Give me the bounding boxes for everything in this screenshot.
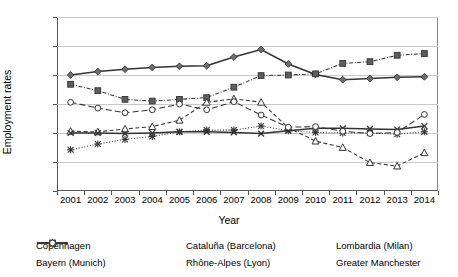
data-point-circle: [177, 101, 183, 107]
data-point-circle: [313, 124, 319, 130]
legend-label: Bayern (Munich): [36, 257, 106, 268]
data-point-star: [203, 127, 210, 134]
data-point-star: [176, 128, 183, 135]
data-point-triangle: [339, 144, 346, 151]
data-point-diamond: [230, 54, 237, 61]
data-point-triangle: [394, 162, 401, 169]
data-point-star: [258, 123, 265, 130]
data-point-circle: [367, 131, 373, 137]
data-point-circle: [204, 107, 210, 113]
data-point-circle: [95, 105, 101, 111]
data-point-circle: [122, 110, 128, 116]
legend-item[interactable]: Lombardia (Milan): [336, 240, 446, 251]
data-point-star: [230, 127, 237, 134]
legend-label: Greater Manchester: [336, 257, 420, 268]
legend: CopenhagenCataluña (Barcelona)Lombardia …: [36, 237, 436, 271]
data-point-diamond: [339, 76, 346, 83]
data-point-square: [95, 88, 101, 94]
x-tick-label: 2014: [407, 195, 441, 205]
data-point-circle: [50, 240, 56, 246]
data-point-square: [122, 96, 128, 102]
data-point-circle: [340, 128, 346, 134]
data-point-diamond: [67, 72, 74, 79]
legend-label: Cataluña (Barcelona): [186, 240, 276, 251]
legend-label: Rhône-Alpes (Lyon): [186, 257, 270, 268]
data-point-triangle: [176, 117, 183, 124]
data-point-square: [68, 81, 74, 87]
legend-item[interactable]: Cataluña (Barcelona): [186, 240, 336, 251]
data-point-star: [122, 136, 129, 143]
series-bayern-munich: [68, 51, 428, 104]
series-layer: [57, 17, 438, 191]
legend-label: Lombardia (Milan): [336, 240, 413, 251]
data-point-triangle: [149, 123, 156, 129]
data-point-triangle: [312, 138, 319, 145]
data-point-diamond: [367, 75, 374, 82]
series-catalu-a-barcelona: [67, 95, 428, 169]
data-point-diamond: [285, 61, 292, 68]
data-point-circle: [258, 112, 264, 118]
data-point-diamond: [149, 64, 156, 71]
data-point-diamond: [258, 46, 265, 53]
data-point-square: [367, 59, 373, 65]
data-point-circle: [231, 99, 237, 105]
plot-area: 55606570758085 2001200220032004200520062…: [57, 17, 438, 191]
data-point-triangle: [421, 149, 428, 156]
legend-item[interactable]: Bayern (Munich): [36, 257, 186, 268]
data-point-circle: [149, 107, 155, 113]
series-copenhagen: [67, 46, 428, 83]
chart-root: Employment rates 55606570758085 20012002…: [0, 0, 458, 277]
data-point-circle: [285, 124, 291, 130]
data-point-circle: [394, 130, 400, 136]
data-point-diamond: [122, 66, 129, 73]
data-point-triangle: [366, 159, 373, 166]
data-point-square: [285, 72, 291, 78]
data-point-circle: [68, 99, 74, 105]
legend-item[interactable]: Greater Manchester: [336, 257, 446, 268]
data-point-square: [313, 71, 319, 77]
data-point-square: [340, 61, 346, 67]
data-point-square: [258, 73, 264, 79]
x-axis-title: Year: [0, 214, 458, 226]
data-point-square: [231, 84, 237, 90]
data-point-star: [94, 141, 101, 148]
series-rh-ne-alpes-lyon: [68, 123, 428, 136]
data-point-square: [149, 98, 155, 104]
data-point-diamond: [394, 74, 401, 81]
data-point-star: [149, 133, 156, 140]
legend-swatch-circle: [36, 237, 69, 249]
data-point-diamond: [421, 73, 428, 80]
data-point-star: [421, 128, 428, 135]
y-axis-title: Employment rates: [0, 0, 15, 277]
data-point-diamond: [176, 63, 183, 70]
data-point-diamond: [94, 68, 101, 75]
data-point-star: [67, 146, 74, 153]
series-lombardia-milan: [67, 123, 428, 154]
data-point-diamond: [203, 62, 210, 69]
data-point-square: [394, 52, 400, 58]
data-point-circle: [421, 112, 427, 118]
data-point-square: [421, 51, 427, 57]
legend-item[interactable]: Rhône-Alpes (Lyon): [186, 257, 336, 268]
data-point-triangle: [258, 99, 265, 106]
